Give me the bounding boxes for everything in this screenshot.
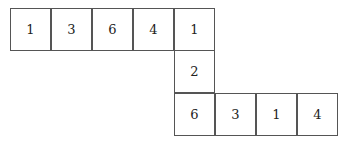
grid-cell: 1 <box>174 8 215 51</box>
grid-cell: 6 <box>92 8 133 51</box>
grid-cell: 1 <box>10 8 51 51</box>
grid-cell: 4 <box>297 93 338 136</box>
grid-cell: 1 <box>256 93 297 136</box>
grid-cell: 4 <box>133 8 174 51</box>
grid-cell: 2 <box>174 50 215 93</box>
grid-cell: 6 <box>174 93 215 136</box>
grid-cell: 3 <box>215 93 256 136</box>
grid-cell: 3 <box>51 8 92 51</box>
